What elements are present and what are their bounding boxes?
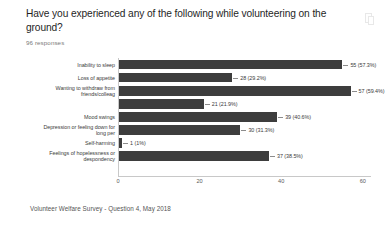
bar[interactable]: [118, 73, 232, 83]
bar-row: Feelings of hopelessness or despondency3…: [0, 150, 392, 163]
bar-track: 37 (38.5%): [118, 150, 392, 163]
question-block: Have you experienced any of the followin…: [26, 7, 336, 46]
bar-row: Inability to sleep55 (57.3%): [0, 58, 392, 71]
response-count: 96 responses: [26, 39, 336, 46]
bar-value-label: 21 (21.9%): [204, 101, 238, 107]
bar-row: 21 (21.9%): [0, 97, 392, 110]
x-axis-line: [118, 176, 371, 177]
bar-value-label: 1 (1%): [122, 140, 146, 146]
bar-chart: Inability to sleep55 (57.3%)Loss of appe…: [0, 58, 392, 186]
bar[interactable]: [118, 86, 351, 96]
bar-value-label: 39 (40.6%): [277, 114, 311, 120]
bar-value-label: 28 (29.2%): [232, 75, 266, 81]
bar-category-label: Inability to sleep: [0, 62, 118, 68]
x-axis-tick-label: 40: [278, 178, 284, 184]
bar-category-label: Self-harming: [0, 140, 118, 146]
bar-category-label: Feelings of hopelessness or despondency: [0, 150, 118, 162]
bar[interactable]: [118, 125, 240, 135]
bar-track: 28 (29.2%): [118, 71, 392, 84]
x-axis-tick-label: 20: [196, 178, 202, 184]
chart-caption: Volunteer Welfare Survey - Question 4, M…: [30, 205, 171, 212]
bar-row: Wanting to withdraw from friends/colleag…: [0, 84, 392, 97]
x-axis-tick-label: 60: [360, 178, 366, 184]
bar-track: 21 (21.9%): [118, 97, 392, 110]
bar-track: 39 (40.6%): [118, 110, 392, 123]
bar[interactable]: [118, 99, 204, 109]
bar[interactable]: [118, 112, 277, 122]
copy-icon[interactable]: [365, 13, 374, 25]
bar-category-label: Loss of appetite: [0, 75, 118, 81]
bar-category-label: Wanting to withdraw from friends/colleag: [0, 85, 118, 97]
x-axis-ticks: 0204060: [0, 178, 392, 188]
bar-value-label: 57 (59.4%): [351, 88, 385, 94]
bar-row: Mood swings39 (40.6%): [0, 110, 392, 123]
bar-track: 57 (59.4%): [118, 84, 392, 97]
chart-plot-area: Inability to sleep55 (57.3%)Loss of appe…: [0, 58, 392, 176]
bar-row: Depression or feeling down for long per3…: [0, 123, 392, 136]
bar-row: Loss of appetite28 (29.2%): [0, 71, 392, 84]
page-title: Have you experienced any of the followin…: [26, 7, 336, 35]
bar[interactable]: [118, 151, 269, 161]
copy-icon-front-sheet: [368, 16, 375, 26]
bar-track: 1 (1%): [118, 137, 392, 150]
bar-row: Self-harming1 (1%): [0, 137, 392, 150]
bar-category-label: Mood swings: [0, 114, 118, 120]
y-axis-line: [118, 58, 119, 176]
bar-category-label: Depression or feeling down for long per: [0, 124, 118, 136]
bar-value-label: 55 (57.3%): [342, 62, 376, 68]
bar-value-label: 37 (38.5%): [269, 153, 303, 159]
bar-value-label: 30 (31.3%): [240, 127, 274, 133]
bar[interactable]: [118, 60, 342, 70]
bar-track: 55 (57.3%): [118, 58, 392, 71]
bar-track: 30 (31.3%): [118, 123, 392, 136]
x-axis-tick-label: 0: [116, 178, 119, 184]
